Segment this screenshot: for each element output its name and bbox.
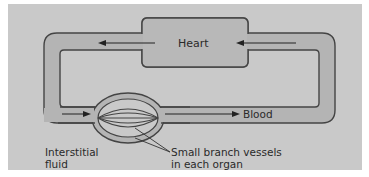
- interstitial-label-1: Interstitial: [45, 146, 99, 158]
- interstitial-label-2: fluid: [45, 158, 68, 170]
- vessels-label-2: in each organ: [171, 158, 243, 170]
- blood-label: Blood: [243, 108, 273, 120]
- heart-label: Heart: [178, 38, 209, 50]
- vessels-label-1: Small branch vessels: [171, 146, 282, 158]
